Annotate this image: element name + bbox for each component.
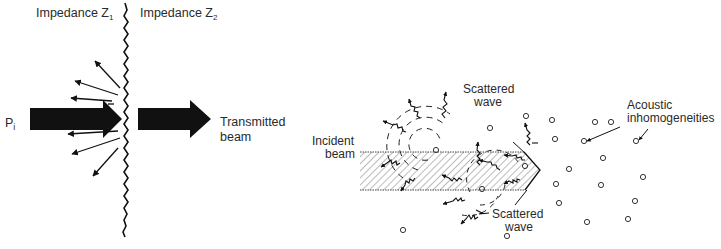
incident-beam-label-line2: beam [325,147,355,161]
squiggle-arrow [461,215,478,224]
inhomogeneity-dot [552,136,557,141]
pointer-spacer [513,192,523,205]
transmitted-beam-label-line2: beam [220,130,251,144]
transmitted-beam-arrow [138,100,211,138]
impedance-z1-label: Impedance Z1 [36,6,114,22]
inhomogeneity-dot [581,138,586,143]
inhomogeneity-dot [553,181,558,186]
inhomogeneity-dot [566,166,571,171]
reflected-arrow [75,81,118,95]
acoustic-diagram: Impedance Z1 Impedance Z2 Pi Transmitted… [0,0,721,249]
reflected-arrow [71,98,112,101]
inhomogeneity-dot [598,182,603,187]
squiggle-arrow [525,123,530,145]
acoustic-inhomogeneities-label-line1: Acoustic [627,98,672,112]
interface-boundary [123,3,128,237]
squiggle-arrow [442,92,447,118]
inhomogeneity-dot [632,198,637,203]
inhomogeneity-pointer [587,127,620,141]
inhomogeneity-dot [600,155,605,160]
inhomogeneity-dot [523,113,528,118]
inhomogeneity-pointer [639,129,648,140]
reflected-arrow [72,138,120,154]
scattered-wave-bottom-label-line1: Scattered [492,207,543,221]
scattered-wave-top-label-line1: Scattered [463,82,514,96]
incident-beam-hatched [360,152,540,190]
inhomogeneity-dot [592,119,597,124]
acoustic-inhomogeneities-label-line2: inhomogeneities [627,111,714,125]
incident-pressure-label: Pi [5,116,15,132]
scattered-wave-top-label-line2: wave [473,95,502,109]
inhomogeneity-dot [487,125,492,130]
inhomogeneity-dot [504,233,509,238]
inhomogeneity-dot [556,200,561,205]
squiggle-arrow [383,121,406,132]
inhomogeneity-dot [608,119,613,124]
scattered-wave-bottom-label-line2: wave [504,220,533,234]
inhomogeneity-dot [400,227,405,232]
transmitted-beam-label-line1: Transmitted [220,115,286,129]
wavefront-line [515,190,527,205]
inhomogeneity-dot [549,117,554,122]
reflected-arrow [93,148,118,176]
incident-beam-label-line1: Incident [312,134,355,148]
inhomogeneity-dot [584,219,589,224]
incident-beam-arrow [30,100,122,138]
squiggle-arrow [443,198,465,204]
inhomogeneity-dot [625,216,630,221]
reflected-arrow [95,61,120,88]
reflected-arrow [68,131,118,134]
scattering-panel: Incident beam Scattered wave Scattered w… [312,82,714,239]
reflection-transmission-panel: Impedance Z1 Impedance Z2 Pi Transmitted… [5,3,286,237]
impedance-z2-label: Impedance Z2 [140,6,218,22]
inhomogeneity-dot [633,138,638,143]
inhomogeneity-dot [640,174,645,179]
squiggle-arrow [409,99,420,118]
